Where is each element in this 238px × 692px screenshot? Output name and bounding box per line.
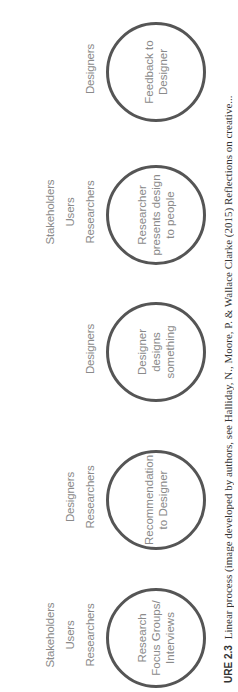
process-circle: Recommendation to Designer — [106, 450, 206, 550]
figure-caption: URE 2.3Linear process (image developed b… — [222, 0, 234, 683]
step-recommendation: Designers Researchers Recommendation to … — [0, 432, 238, 562]
step-present: Stakeholders Users Researchers Researche… — [0, 147, 238, 277]
process-circle: Researcher presents design to people — [106, 165, 206, 265]
process-circle: Designer designs something — [106, 302, 206, 402]
role-label: Researchers — [80, 181, 100, 244]
step-research: Stakeholders Users Researchers Research … — [0, 570, 238, 692]
roles: Designers — [0, 4, 100, 134]
roles: Designers Researchers — [0, 432, 100, 562]
caption-text: Linear process (image developed by autho… — [222, 95, 234, 639]
roles: Stakeholders Users Researchers — [0, 147, 100, 277]
role-label: Stakeholders — [40, 603, 60, 668]
role-label: Researchers — [80, 466, 100, 529]
role-label: Users — [60, 620, 80, 649]
process-circle: Research Focus Groups/ Interviews — [106, 588, 206, 688]
roles: Stakeholders Users Researchers — [0, 570, 100, 692]
role-label: Designers — [60, 472, 80, 522]
role-label: Designers — [80, 44, 100, 94]
step-design: Designers Designer designs something — [0, 284, 238, 414]
role-label: Stakeholders — [40, 180, 60, 245]
step-feedback: Designers Feedback to Designer — [0, 4, 238, 134]
role-label: Users — [60, 197, 80, 226]
roles: Designers — [0, 284, 100, 414]
role-label: Designers — [80, 324, 100, 374]
role-label: Researchers — [80, 604, 100, 667]
figure-label: URE 2.3 — [223, 645, 234, 683]
process-circle: Feedback to Designer — [106, 22, 206, 122]
